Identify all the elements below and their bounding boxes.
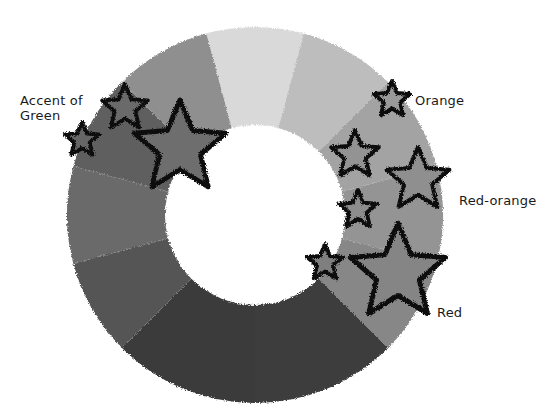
label-red: Red [437, 305, 462, 320]
label-accent-of-green: Accent of Green [20, 93, 83, 123]
label-orange: Orange [415, 93, 464, 108]
label-red-orange: Red-orange [459, 193, 536, 208]
